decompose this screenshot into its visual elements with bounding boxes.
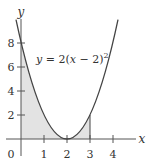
eq-exponent: 2 [103,51,108,60]
x-tick-label-4: 4 [110,148,117,161]
origin-label: 0 [8,148,15,161]
y-axis-label: y [17,5,25,19]
x-tick-label-1: 1 [41,148,48,161]
y-tick-label-8: 8 [8,37,15,50]
eq-eq: = 2( [42,53,70,66]
y-tick-label-6: 6 [8,61,15,74]
y-tick-label-2: 2 [8,109,15,122]
y-tick-label-4: 4 [8,85,15,98]
x-axis-label: x [139,132,146,146]
parabola-diagram: 0 1 2 3 4 2 4 6 8 x y y = 2(x − 2)2 [0,0,149,162]
equation-label: y = 2(x − 2)2 [35,51,109,66]
x-tick-label-2: 2 [64,148,71,161]
eq-minus: − 2) [76,53,104,66]
x-tick-label-3: 3 [87,148,94,161]
